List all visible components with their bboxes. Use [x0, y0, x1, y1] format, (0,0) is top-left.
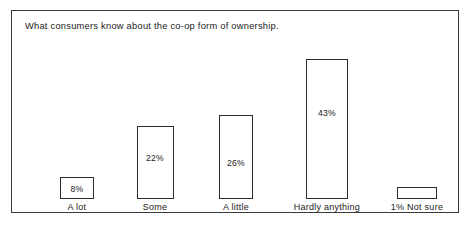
bar-label-a-little: A little: [205, 202, 267, 212]
bar-value-a-little: 26%: [220, 158, 252, 168]
bar-some: 22%: [137, 126, 174, 199]
bar-a-little: 26%: [219, 115, 253, 199]
bar-group-some: 22% Some: [124, 126, 186, 212]
bar-label-not-sure: 1% Not sure: [364, 202, 470, 212]
bar-value-some: 22%: [138, 153, 173, 163]
bar-value-hardly-anything: 43%: [307, 108, 347, 118]
bar-label-some: Some: [124, 202, 186, 212]
bar-group-not-sure: 1% 1% Not sure: [364, 187, 470, 212]
chart-frame: What consumers know about the co-op form…: [11, 10, 459, 213]
plot-area: 8% A lot 22% Some 26% A little 43% Hardl…: [12, 11, 458, 212]
bar-hardly-anything: 43%: [306, 59, 348, 199]
bar-not-sure: 1%: [397, 187, 437, 199]
bar-a-lot: 8%: [60, 177, 94, 199]
bar-group-a-lot: 8% A lot: [46, 177, 108, 212]
bar-value-a-lot: 8%: [61, 184, 93, 194]
bar-label-a-lot: A lot: [46, 202, 108, 212]
bar-group-a-little: 26% A little: [205, 115, 267, 212]
